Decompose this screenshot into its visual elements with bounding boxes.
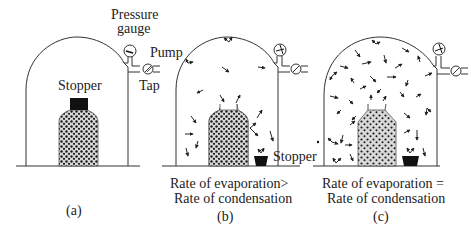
label-tap: Tap <box>139 78 160 93</box>
bottle-a <box>59 110 98 166</box>
label-pressure-gauge-line1: Pressure <box>111 7 158 22</box>
condition-b-line1: Rate of evaporation> <box>170 176 288 191</box>
bottle-c <box>358 110 396 166</box>
label-stopper-b: Stopper <box>273 149 317 164</box>
gauge-pipe-c <box>433 56 450 74</box>
caption-b: (b) <box>217 209 233 224</box>
stopper-a <box>70 98 88 110</box>
condition-b-line2: Rate of condensation <box>174 191 292 206</box>
condition-c-line1: Rate of evaporation = <box>322 176 444 191</box>
stray-molecule <box>317 141 319 143</box>
caption-a: (a) <box>66 203 82 218</box>
panel-a <box>16 37 160 166</box>
label-pressure-gauge-line2: gauge <box>117 21 150 36</box>
label-pump: Pump <box>150 45 183 60</box>
caption-c: (c) <box>373 209 389 224</box>
panel-c <box>313 37 468 166</box>
label-stopper-a: Stopper <box>58 78 102 93</box>
gauge-pipe-a <box>124 56 140 72</box>
pressure-gauge-icon-a <box>124 45 136 57</box>
condition-c-line2: Rate of condensation <box>327 191 445 206</box>
stopper-c <box>402 156 419 166</box>
gauge-pipe-b <box>274 56 290 72</box>
panel-b <box>162 37 308 166</box>
stopper-b <box>254 156 268 166</box>
